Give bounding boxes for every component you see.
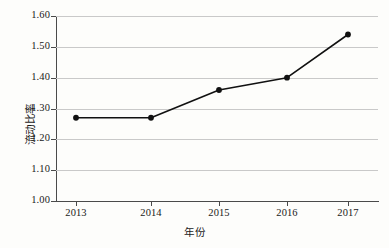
data-point xyxy=(284,75,290,81)
x-axis-tick-label: 2014 xyxy=(140,207,161,218)
data-point xyxy=(216,87,222,93)
y-axis-tick xyxy=(51,109,56,110)
line-series-svg xyxy=(56,16,378,201)
y-axis-tick-label: 1.40 xyxy=(14,71,50,82)
y-axis-tick-label: 1.10 xyxy=(14,163,50,174)
y-axis-tick xyxy=(51,201,56,202)
data-line xyxy=(76,35,348,118)
x-axis-tick-label: 2017 xyxy=(337,207,358,218)
plot-area xyxy=(56,16,378,201)
y-axis-tick xyxy=(51,47,56,48)
x-axis-tick-label: 2013 xyxy=(65,207,86,218)
data-markers-group xyxy=(73,32,351,121)
y-axis-tick xyxy=(51,78,56,79)
x-axis-tick xyxy=(348,201,349,206)
x-axis-tick-label: 2016 xyxy=(276,207,297,218)
y-axis-tick-label: 1.20 xyxy=(14,132,50,143)
x-axis-tick xyxy=(219,201,220,206)
y-axis-tick xyxy=(51,170,56,171)
gridline xyxy=(56,201,378,202)
x-axis-tick xyxy=(287,201,288,206)
chart-figure: 流动比率 1.001.101.201.301.401.501.60 201320… xyxy=(0,0,389,248)
x-axis-title: 年份 xyxy=(0,224,389,239)
y-axis-tick xyxy=(51,139,56,140)
x-axis-tick xyxy=(151,201,152,206)
y-axis-tick-label: 1.60 xyxy=(14,9,50,20)
data-point xyxy=(345,32,351,38)
y-axis-tick-label: 1.00 xyxy=(14,194,50,205)
y-axis-tick-label: 1.30 xyxy=(14,102,50,113)
data-point xyxy=(148,115,154,121)
y-axis-tick-label: 1.50 xyxy=(14,40,50,51)
x-axis-tick xyxy=(76,201,77,206)
data-point xyxy=(73,115,79,121)
x-axis-tick-label: 2015 xyxy=(208,207,229,218)
y-axis-tick xyxy=(51,16,56,17)
